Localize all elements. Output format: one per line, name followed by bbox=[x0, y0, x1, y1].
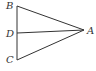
segment-ab bbox=[17, 6, 84, 30]
label-c: C bbox=[6, 54, 14, 65]
segment-da bbox=[17, 30, 84, 33]
label-b: B bbox=[5, 0, 13, 11]
label-d: D bbox=[5, 28, 14, 39]
segment-ca bbox=[17, 30, 84, 60]
triangle-diagram: B D C A bbox=[0, 0, 96, 71]
label-a: A bbox=[86, 25, 94, 36]
